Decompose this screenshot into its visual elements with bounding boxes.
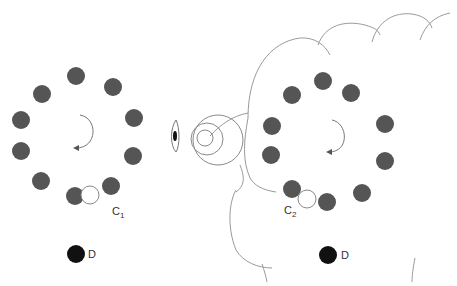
ring-dot — [12, 142, 30, 160]
label-detector-right: D — [341, 249, 349, 261]
label-c2: C2 — [284, 204, 296, 219]
detector-right — [319, 246, 337, 264]
ring-dot — [102, 177, 120, 195]
ring-dot — [124, 147, 142, 165]
ring-dot — [353, 184, 371, 202]
ring-dot — [314, 72, 332, 90]
ring-dot — [67, 67, 85, 85]
ring-dot — [262, 146, 280, 164]
ring-dot — [283, 86, 301, 104]
ring-dot — [342, 84, 360, 102]
ring-dot — [376, 152, 394, 170]
rotation-arrow-right — [329, 120, 344, 152]
rotation-arrow-left — [76, 115, 93, 148]
right-ring — [262, 72, 394, 211]
ring-dot — [32, 172, 50, 190]
label-c1: C1 — [112, 205, 124, 220]
ring-dot — [318, 193, 336, 211]
ring-dot — [33, 85, 51, 103]
open-circle — [298, 190, 316, 208]
left-ring — [12, 67, 143, 205]
ring-dot — [104, 78, 122, 96]
open-circle — [81, 186, 99, 204]
ring-dot — [12, 111, 30, 129]
observer-eye — [172, 120, 180, 152]
cloud-outline — [210, 13, 450, 282]
wave-rings — [191, 115, 243, 165]
detector-left — [67, 245, 85, 263]
diagram-canvas — [0, 0, 457, 286]
ring-dot — [376, 115, 394, 133]
ring-dot — [125, 109, 143, 127]
label-detector-left: D — [88, 248, 96, 260]
ring-dot — [263, 117, 281, 135]
